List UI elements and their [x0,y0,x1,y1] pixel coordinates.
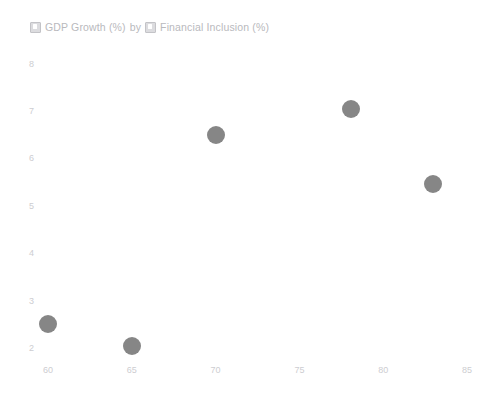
data-point[interactable] [39,315,57,333]
data-point[interactable] [207,126,225,144]
data-point[interactable] [424,175,442,193]
data-point[interactable] [342,100,360,118]
data-point-layer [0,0,504,406]
data-point[interactable] [123,337,141,355]
plot-area: 2345678 606570758085 [0,0,504,406]
scatter-chart-visual: GDP Growth (%) by Financial Inclusion (%… [0,0,504,406]
